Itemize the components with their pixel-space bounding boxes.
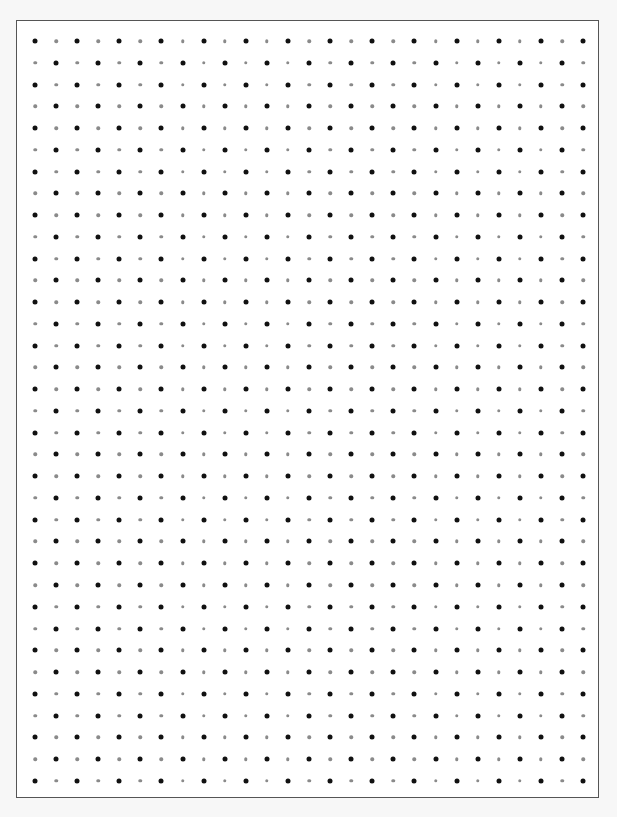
light-dot [392,170,396,174]
light-dot [371,366,375,370]
light-dot [33,366,37,370]
dark-dot [538,300,543,305]
light-dot [455,105,459,109]
light-dot [518,344,522,348]
light-dot [96,431,100,435]
dark-dot [328,604,333,609]
light-dot [202,540,206,544]
dark-dot [391,321,396,326]
dark-dot [264,713,269,718]
light-dot [75,279,79,283]
dark-dot [307,321,312,326]
light-dot [244,192,248,196]
light-dot [286,453,290,457]
light-dot [455,627,459,631]
dark-dot [391,278,396,283]
dark-dot [96,234,101,239]
dark-dot [33,474,38,479]
light-dot [160,496,164,500]
light-dot [328,714,332,718]
light-dot [139,126,143,130]
light-dot [476,126,480,130]
dark-dot [75,256,80,261]
light-dot [307,736,311,740]
light-dot [96,83,100,87]
dark-dot [201,778,206,783]
light-dot [371,670,375,674]
light-dot [349,170,353,174]
light-dot [160,105,164,109]
dark-dot [222,104,227,109]
light-dot [286,496,290,500]
dark-dot [180,234,185,239]
dark-dot [328,691,333,696]
dark-dot [75,648,80,653]
dark-dot [391,539,396,544]
dark-dot [264,495,269,500]
dark-dot [475,147,480,152]
light-dot [244,366,248,370]
light-dot [54,649,58,653]
light-dot [413,627,417,631]
light-dot [539,627,543,631]
light-dot [560,518,564,522]
light-dot [581,583,585,587]
light-dot [392,126,396,130]
dark-dot [475,234,480,239]
light-dot [33,627,37,631]
dark-dot [328,561,333,566]
dark-dot [285,735,290,740]
dark-dot [222,60,227,65]
light-dot [181,561,185,565]
light-dot [181,518,185,522]
dark-dot [581,213,586,218]
light-dot [75,61,79,65]
dark-dot [581,256,586,261]
light-dot [118,235,122,239]
dark-dot [412,169,417,174]
dark-dot [138,539,143,544]
light-dot [518,170,522,174]
light-dot [349,300,353,304]
light-dot [244,279,248,283]
light-dot [476,605,480,609]
light-dot [581,148,585,152]
dark-dot [285,430,290,435]
light-dot [328,105,332,109]
dark-dot [264,234,269,239]
light-dot [265,605,269,609]
dark-dot [222,147,227,152]
light-dot [54,83,58,87]
dark-dot [201,561,206,566]
dark-dot [328,387,333,392]
dark-dot [581,126,586,131]
dark-dot [96,60,101,65]
dark-dot [159,169,164,174]
dark-dot [243,474,248,479]
dark-dot [54,670,59,675]
dark-dot [581,39,586,44]
dark-dot [285,39,290,44]
dark-dot [581,604,586,609]
dark-dot [285,778,290,783]
light-dot [139,170,143,174]
light-dot [118,670,122,674]
dark-dot [412,430,417,435]
light-dot [434,605,438,609]
dark-dot [138,757,143,762]
light-dot [139,518,143,522]
light-dot [265,561,269,565]
light-dot [54,300,58,304]
light-dot [539,192,543,196]
light-dot [96,692,100,696]
dark-dot [560,583,565,588]
light-dot [75,322,79,326]
dark-dot [391,757,396,762]
dark-dot [454,517,459,522]
light-dot [455,496,459,500]
dark-dot [454,474,459,479]
dark-dot [285,648,290,653]
light-dot [202,453,206,457]
dark-dot [96,539,101,544]
dark-dot [517,234,522,239]
